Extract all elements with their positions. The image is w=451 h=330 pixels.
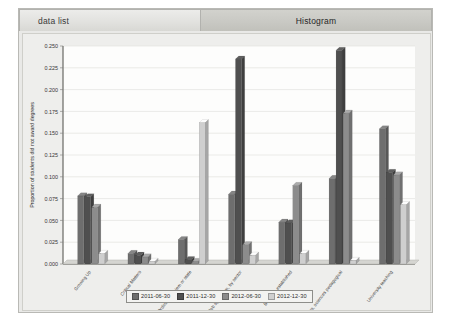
bar-front-face: [85, 197, 91, 264]
bar-3-4: [199, 120, 208, 264]
x-tick-label: Growing Up: [73, 269, 92, 292]
bar-front-face: [243, 245, 249, 264]
bar-front-face: [78, 196, 84, 264]
legend-item-4[interactable]: 2012-12-30: [268, 293, 307, 300]
legend-label: 2011-12-30: [186, 293, 215, 299]
bar-4-2: [236, 56, 245, 264]
legend-label: 2012-06-30: [231, 293, 261, 299]
legend-label: 2012-12-30: [277, 293, 307, 299]
bar-front-face: [279, 222, 285, 264]
legend-item-3[interactable]: 2012-06-30: [222, 293, 261, 300]
y-tick-label: 0.000: [45, 261, 59, 267]
legend-item-1[interactable]: 2011-06-30: [132, 293, 170, 300]
bar-front-face: [192, 261, 198, 264]
y-tick-label: 0.075: [45, 196, 59, 202]
bar-front-face: [336, 50, 342, 264]
bar-front-face: [300, 254, 306, 264]
y-tick-label: 0.150: [45, 130, 59, 136]
bar-front-face: [293, 186, 299, 264]
y-tick-label: 0.250: [45, 43, 59, 49]
legend-swatch-icon: [222, 293, 229, 300]
legend-item-2[interactable]: 2011-12-30: [177, 293, 215, 300]
bar-front-face: [400, 205, 406, 264]
bar-front-face: [386, 172, 392, 264]
bar-front-face: [142, 257, 148, 264]
bar-5-3: [293, 182, 302, 264]
bar-front-face: [92, 207, 98, 264]
bar-front-face: [135, 255, 141, 264]
bar-front-face: [149, 261, 155, 264]
legend-swatch-icon: [132, 293, 139, 300]
y-axis-title: Proportion of students did not award deg…: [29, 102, 35, 208]
app-window: data list Histogram 0.2500.2250.2000.175…: [18, 8, 433, 313]
bar-front-face: [229, 194, 235, 264]
legend-label: 2011-06-30: [141, 293, 170, 299]
bar-1-4: [99, 250, 108, 264]
bar-side-face: [349, 110, 352, 264]
bar-front-face: [350, 261, 356, 264]
bar-4-4: [250, 252, 259, 264]
tab-histogram[interactable]: Histogram: [201, 9, 432, 31]
y-tick-label: 0.200: [45, 87, 59, 93]
y-tick-label: 0.050: [45, 218, 59, 224]
bar-front-face: [185, 260, 191, 264]
bar-chart: 0.2500.2250.2000.1750.1500.1250.1000.075…: [23, 34, 430, 310]
tab-data-list-label: data list: [38, 16, 69, 26]
bar-side-face: [406, 202, 409, 264]
bar-front-face: [286, 223, 292, 264]
tab-strip: data list Histogram: [19, 9, 432, 31]
y-tick-label: 0.100: [45, 174, 59, 180]
bar-7-4: [400, 202, 409, 264]
histogram-chart-panel: 0.2500.2250.2000.1750.1500.1250.1000.075…: [22, 33, 431, 311]
y-tick-label: 0.225: [45, 65, 59, 71]
bar-5-4: [300, 250, 309, 264]
bar-front-face: [250, 255, 256, 264]
y-tick-label: 0.175: [45, 109, 59, 115]
chart-legend: 2011-06-302011-12-302012-06-302012-12-30: [126, 290, 313, 303]
bar-6-3: [343, 110, 352, 264]
bar-front-face: [343, 113, 349, 264]
y-tick-label: 0.025: [45, 239, 59, 245]
bar-side-face: [205, 120, 208, 264]
bar-front-face: [178, 240, 184, 264]
bar-front-face: [379, 129, 385, 264]
y-tick-label: 0.125: [45, 152, 59, 158]
x-tick-label: University teaching: [366, 269, 394, 303]
tab-data-list[interactable]: data list: [19, 9, 201, 31]
tab-histogram-label: Histogram: [296, 16, 337, 26]
bar-front-face: [128, 254, 134, 264]
bar-front-face: [99, 254, 105, 264]
legend-swatch-icon: [268, 293, 275, 300]
bar-front-face: [236, 59, 242, 264]
bar-side-face: [242, 56, 245, 264]
bar-front-face: [393, 175, 399, 264]
bar-front-face: [329, 179, 335, 264]
legend-swatch-icon: [177, 293, 184, 300]
bar-front-face: [199, 123, 205, 264]
